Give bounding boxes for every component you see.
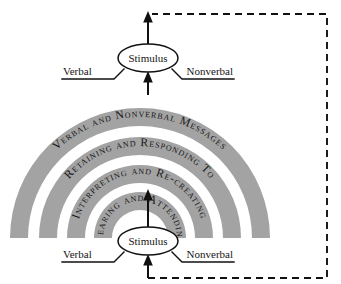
bottom-verbal-label: Verbal (63, 248, 92, 260)
top-nonverbal-label: Nonverbal (187, 65, 233, 77)
top-output-arrow (143, 11, 153, 48)
top-stimulus-label: Stimulus (128, 52, 167, 64)
top-stimulus-node: Stimulus Verbal Nonverbal (62, 44, 234, 95)
arc-label-group: Verbal and Nonverbal Messages Retaining … (0, 0, 230, 238)
top-input-arrow (143, 71, 153, 95)
bottom-nonverbal-label: Nonverbal (187, 248, 233, 260)
bottom-stimulus-label: Stimulus (128, 235, 167, 247)
bottom-input-arrow (143, 254, 153, 278)
listening-process-diagram: Verbal and Nonverbal Messages Retaining … (0, 0, 341, 284)
top-verbal-label: Verbal (63, 65, 92, 77)
diagram-canvas: Verbal and Nonverbal Messages Retaining … (0, 0, 341, 284)
